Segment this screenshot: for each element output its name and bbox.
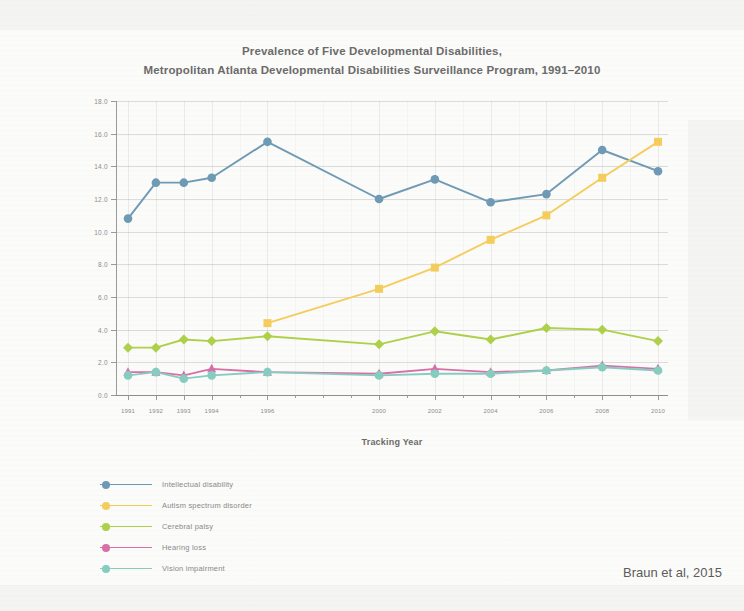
y-tick-label: 8.0 (98, 261, 108, 268)
x-tick-label: 1994 (205, 408, 219, 414)
series-line (267, 142, 658, 323)
x-tick-label: 1992 (149, 408, 163, 414)
data-point-marker (653, 336, 663, 346)
data-point-marker (486, 198, 495, 207)
data-point-marker (263, 319, 271, 327)
data-point-marker (541, 323, 551, 333)
legend-marker-icon (102, 544, 110, 552)
data-point-marker (124, 214, 133, 223)
x-tick-mark-minor (407, 395, 408, 398)
data-point-marker (179, 334, 189, 344)
chart-title-line-1: Prevalence of Five Developmental Disabil… (0, 42, 744, 61)
data-point-marker (375, 371, 384, 380)
x-tick-label: 2008 (595, 408, 609, 414)
x-tick-mark-minor (323, 395, 324, 398)
y-tick-label: 14.0 (94, 163, 108, 170)
data-point-marker (123, 343, 133, 353)
data-point-marker (430, 326, 440, 336)
y-tick-label: 12.0 (94, 196, 108, 203)
series-layer (116, 101, 668, 395)
data-point-marker (431, 264, 439, 272)
x-tick-mark-minor (295, 395, 296, 398)
x-tick-label: 2006 (539, 408, 553, 414)
chart-title-line-2: Metropolitan Atlanta Developmental Disab… (0, 61, 744, 80)
legend-item-autism-spectrum-disorder[interactable]: Autism spectrum disorder (100, 495, 252, 516)
x-tick-mark-minor (630, 395, 631, 398)
x-tick-mark (658, 395, 659, 400)
legend-label: Intellectual disability (162, 480, 233, 489)
x-axis-line (116, 395, 668, 396)
data-point-marker (598, 174, 606, 182)
data-point-marker (207, 173, 216, 182)
x-tick-mark-minor (240, 395, 241, 398)
scan-smudge-bottom (0, 585, 744, 611)
x-tick-mark-minor (463, 395, 464, 398)
x-tick-label: 2000 (372, 408, 386, 414)
legend-swatch-icon (100, 479, 152, 491)
data-point-marker (151, 343, 161, 353)
legend-swatch-icon (100, 521, 152, 533)
x-tick-mark (602, 395, 603, 400)
series-cerebral-palsy (123, 323, 663, 353)
data-point-marker (654, 167, 663, 176)
x-tick-mark-minor (519, 395, 520, 398)
data-point-marker (486, 334, 496, 344)
data-point-marker (375, 195, 384, 204)
scan-smudge-right (688, 120, 744, 420)
legend-marker-icon (102, 565, 110, 573)
x-tick-mark (128, 395, 129, 400)
y-tick-label: 16.0 (94, 130, 108, 137)
legend-swatch-icon (100, 542, 152, 554)
x-tick-label: 1991 (121, 408, 135, 414)
data-point-marker (124, 371, 133, 380)
data-point-marker (542, 190, 551, 199)
legend-label: Hearing loss (162, 543, 206, 552)
legend-marker-icon (102, 502, 110, 510)
data-point-marker (598, 363, 607, 372)
legend-item-intellectual-disability[interactable]: Intellectual disability (100, 474, 252, 495)
series-intellectual-disability (124, 138, 663, 223)
y-tick-label: 18.0 (94, 98, 108, 105)
x-tick-mark-minor (351, 395, 352, 398)
data-point-marker (374, 339, 384, 349)
data-point-marker (152, 368, 161, 377)
x-tick-mark (156, 395, 157, 400)
legend-marker-icon (102, 523, 110, 531)
plot-area: 0.02.04.06.08.010.012.014.016.018.0 1991… (116, 101, 668, 395)
data-point-marker (179, 178, 188, 187)
x-tick-label: 2002 (428, 408, 442, 414)
x-tick-label: 1996 (260, 408, 274, 414)
legend-item-vision-impairment[interactable]: Vision impairment (100, 558, 252, 579)
data-point-marker (263, 368, 272, 377)
y-tick-label: 6.0 (98, 294, 108, 301)
data-point-marker (207, 371, 216, 380)
x-tick-mark (267, 395, 268, 400)
data-point-marker (487, 236, 495, 244)
legend-label: Cerebral palsy (162, 522, 213, 531)
x-axis-title: Tracking Year (116, 437, 668, 447)
series-autism-spectrum-disorder (263, 138, 662, 327)
x-tick-mark (491, 395, 492, 400)
x-tick-mark (546, 395, 547, 400)
x-tick-mark (379, 395, 380, 400)
data-point-marker (542, 211, 550, 219)
data-point-marker (431, 175, 440, 184)
legend-label: Vision impairment (162, 564, 225, 573)
data-point-marker (654, 366, 663, 375)
data-point-marker (179, 374, 188, 383)
legend-swatch-icon (100, 563, 152, 575)
x-tick-mark (435, 395, 436, 400)
x-tick-label: 1993 (177, 408, 191, 414)
data-point-marker (598, 146, 607, 155)
legend-label: Autism spectrum disorder (162, 501, 252, 510)
data-point-marker (542, 366, 551, 375)
legend-item-cerebral-palsy[interactable]: Cerebral palsy (100, 516, 252, 537)
data-point-marker (262, 331, 272, 341)
y-tick-label: 2.0 (98, 359, 108, 366)
data-point-marker (654, 138, 662, 146)
y-tick-mark (111, 395, 116, 396)
y-tick-label: 10.0 (94, 228, 108, 235)
series-line (128, 366, 658, 376)
attribution-text: Braun et al, 2015 (623, 565, 722, 580)
legend-item-hearing-loss[interactable]: Hearing loss (100, 537, 252, 558)
